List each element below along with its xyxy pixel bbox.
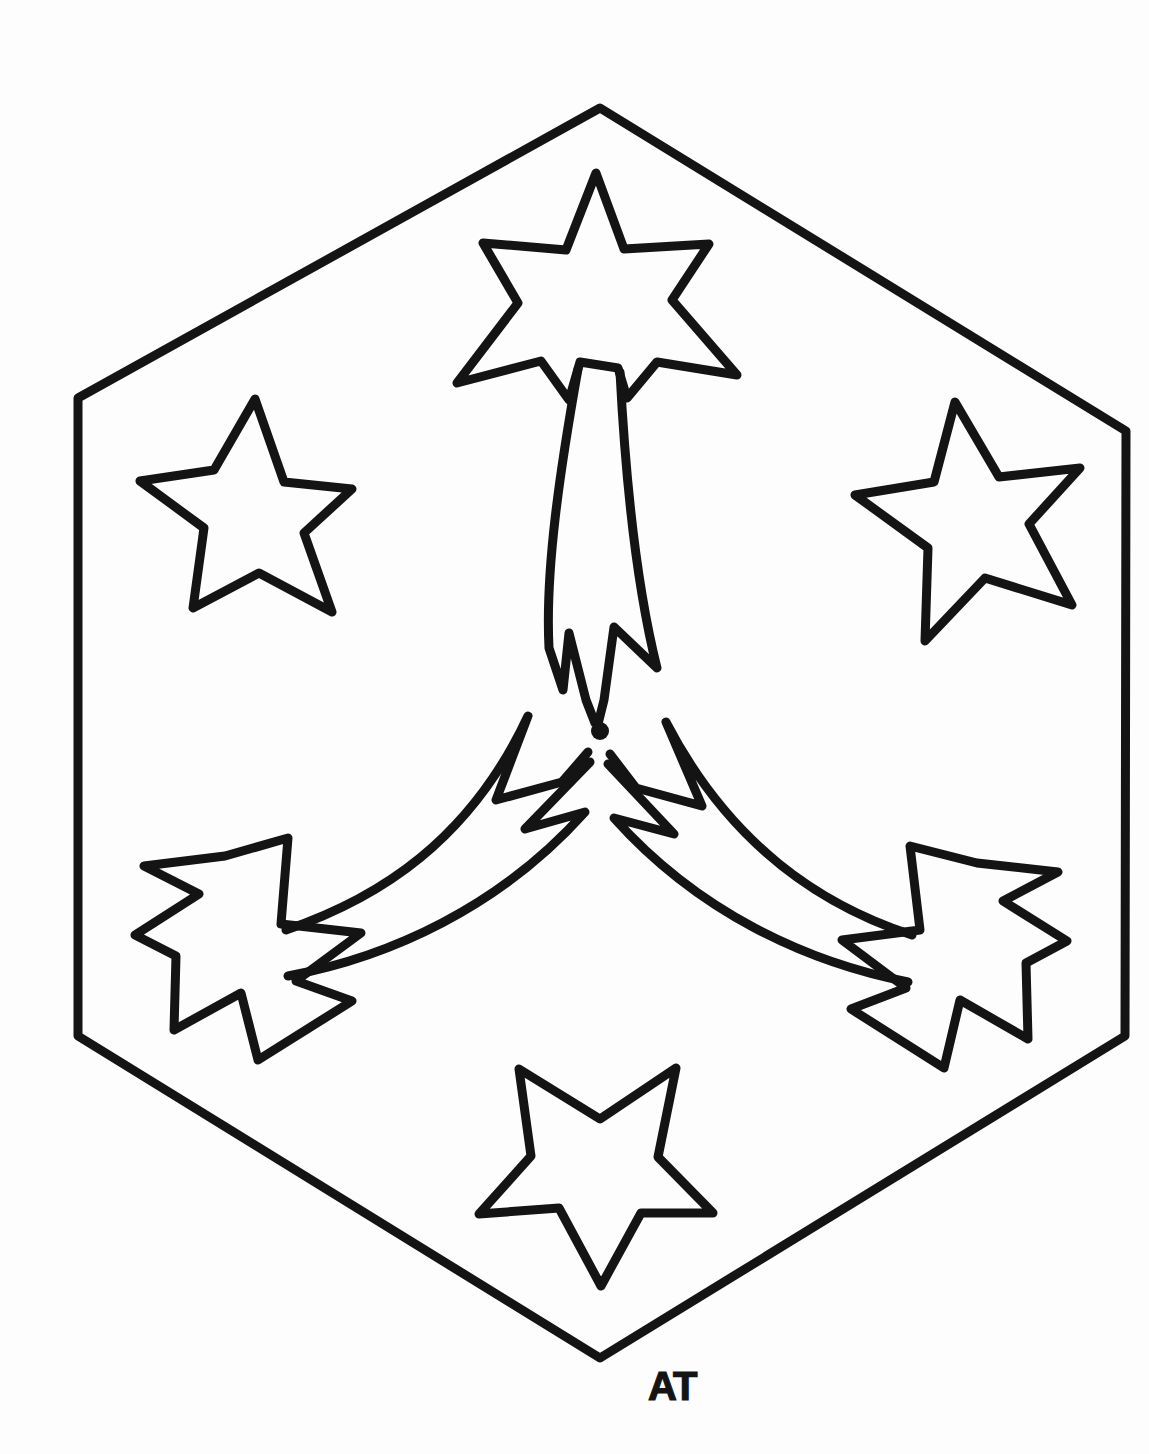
artist-signature: AT: [648, 1364, 697, 1408]
artboard: AT: [0, 0, 1149, 1454]
line-art-canvas: AT: [0, 0, 1149, 1454]
center-dot: [591, 722, 609, 740]
